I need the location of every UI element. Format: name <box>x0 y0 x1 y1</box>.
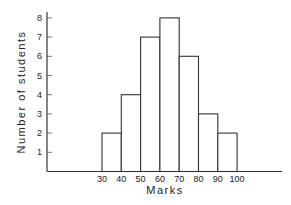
bar-70-80 <box>179 56 198 171</box>
y-tick-label: 4 <box>37 90 42 100</box>
y-tick-label: 5 <box>37 71 42 81</box>
y-tick-label: 1 <box>37 147 42 157</box>
x-tick-label: 40 <box>116 174 126 184</box>
bar-50-60 <box>141 37 160 171</box>
bar-90-100 <box>218 133 237 171</box>
x-axis-title: Marks <box>146 184 183 196</box>
bar-40-50 <box>121 95 140 172</box>
x-tick-label: 60 <box>155 174 165 184</box>
y-tick-label: 6 <box>37 51 42 61</box>
y-tick-label: 3 <box>37 109 42 119</box>
bar-80-90 <box>199 114 218 172</box>
x-tick-label: 30 <box>97 174 107 184</box>
y-tick-label: 8 <box>37 13 42 23</box>
bars-group <box>102 18 237 172</box>
x-ticks: 30405060708090100 <box>97 174 245 184</box>
y-tick-label: 2 <box>37 128 42 138</box>
x-tick-label: 80 <box>193 174 203 184</box>
x-tick-label: 70 <box>174 174 184 184</box>
y-axis-title: Number of students <box>15 31 27 154</box>
x-tick-label: 50 <box>136 174 146 184</box>
x-tick-label: 90 <box>213 174 223 184</box>
histogram-chart: 12345678 30405060708090100 Marks Number … <box>0 0 291 205</box>
bar-60-70 <box>160 18 179 172</box>
y-tick-label: 7 <box>37 32 42 42</box>
x-tick-label: 100 <box>230 174 245 184</box>
bar-30-40 <box>102 133 121 171</box>
y-ticks: 12345678 <box>37 13 52 157</box>
